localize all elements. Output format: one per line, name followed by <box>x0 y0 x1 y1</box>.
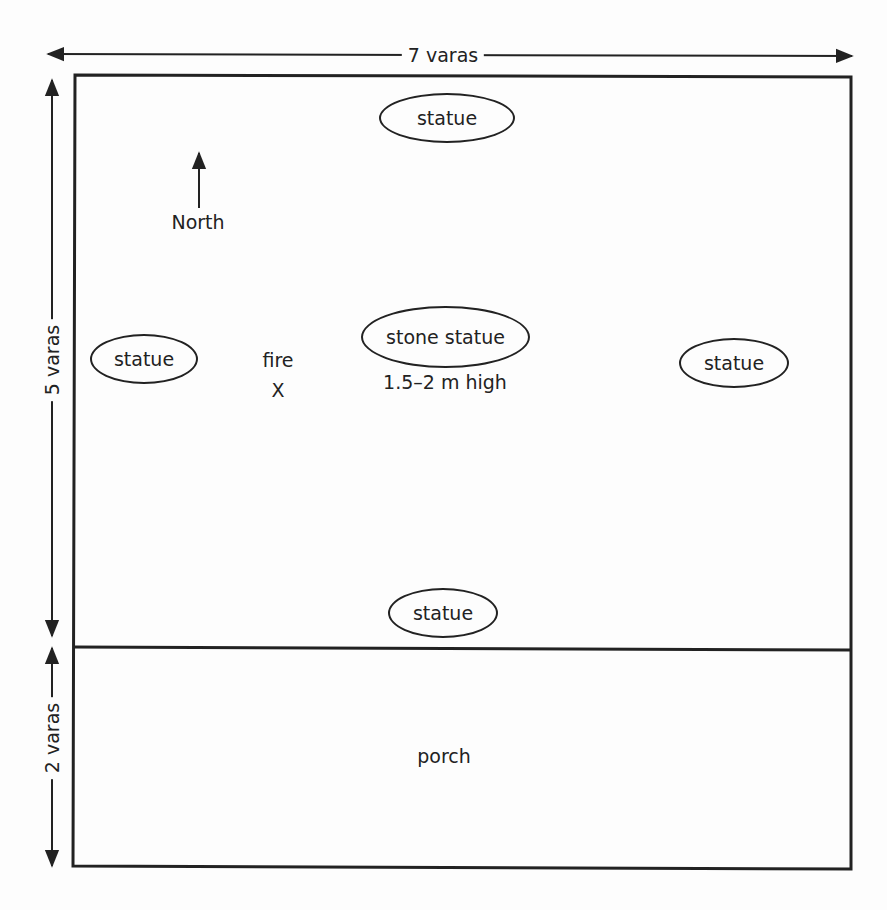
stone-statue-height-note: 1.5–2 m high <box>383 373 507 392</box>
north-label: North <box>171 213 224 232</box>
main-room-height-label: 5 varas <box>43 319 62 401</box>
statue-south-label: statue <box>413 602 473 624</box>
porch-height-label: 2 varas <box>43 697 62 779</box>
statue-north: statue <box>379 93 515 143</box>
stone-statue-center: stone statue <box>361 306 530 368</box>
statue-west: statue <box>90 334 198 384</box>
statue-south: statue <box>388 588 498 638</box>
width-label: 7 varas <box>402 46 484 65</box>
porch-divider <box>74 647 851 650</box>
fire-marker-icon: X <box>271 381 284 400</box>
statue-north-label: statue <box>417 107 477 129</box>
fire-label: fire <box>262 351 293 370</box>
stone-statue-label: stone statue <box>386 326 505 348</box>
statue-west-label: statue <box>114 348 174 370</box>
porch-label: porch <box>417 747 471 766</box>
statue-east: statue <box>679 338 789 388</box>
statue-east-label: statue <box>704 352 764 374</box>
